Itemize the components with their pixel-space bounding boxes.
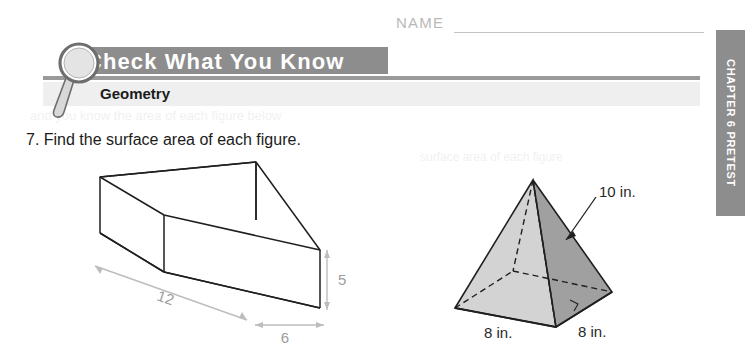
prism-edges [100,162,320,308]
pyramid-face-right [533,180,612,327]
magnifying-glass-icon [48,38,104,118]
header-divider-rule [43,76,700,80]
page-title: Check What You Know [86,49,344,75]
worksheet-page: and you know the area of each figure bel… [0,0,756,364]
chapter-pretest-tab-label: CHAPTER 6 PRETEST [725,59,737,187]
page-showthrough-text: surface area of each figure [420,150,563,164]
pyramid-hidden-edges [455,180,612,327]
name-write-line[interactable] [454,32,704,33]
pyramid-base-label-left: 8 in. [484,324,512,341]
pyramid-slant-height-label: 10 in. [599,183,636,200]
right-angle-mark [570,300,578,311]
dimension-line-height [324,250,330,310]
pyramid-face-left [455,180,556,327]
dimension-label-height: 5 [338,271,346,288]
dimension-line-width [255,322,324,328]
lesson-subtitle: Geometry [100,85,170,102]
dimension-label-width: 6 [281,329,289,346]
chapter-pretest-tab: CHAPTER 6 PRETEST [716,30,745,216]
dimension-line-length [95,266,247,320]
slant-height-leader-line [566,197,596,240]
pyramid-base-label-right: 8 in. [578,323,606,340]
dimension-label-length: 12 [155,287,176,309]
pyramid-base-edges [455,292,612,327]
question-prompt: 7. Find the surface area of each figure. [26,131,301,149]
check-what-you-know-banner: Check What You Know [72,47,388,74]
lesson-subtitle-band: Geometry [43,82,700,106]
name-label: NAME [396,14,444,31]
name-field[interactable]: NAME [396,14,706,36]
